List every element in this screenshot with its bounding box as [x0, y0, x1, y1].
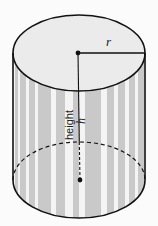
top-center-point: [76, 51, 81, 56]
cylinder-diagram: r height h: [0, 0, 158, 226]
height-word-label: height: [63, 110, 75, 140]
height-symbol-label: h: [74, 118, 88, 124]
bottom-center-point: [78, 178, 83, 183]
